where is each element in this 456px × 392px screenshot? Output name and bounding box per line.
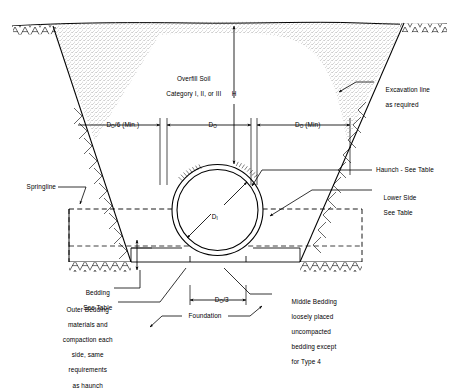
undisturbed-earth-top-right [400, 23, 447, 33]
outer-bedding-label: Outer Bedding materials and compaction e… [50, 298, 118, 392]
foundation-earth-hatch-right [300, 262, 362, 272]
middle-bedding-l4: bedding except [292, 343, 337, 350]
inner-diameter-dimension-label: DI [198, 205, 224, 230]
outer-bedding-l6: as haunch [73, 382, 103, 389]
excavation-line-label: Excavation line as required [378, 78, 456, 116]
overfill-soil-label: Overfill Soil Category I, II, or III [140, 67, 240, 105]
lower-side-label: Lower Side See Table [376, 186, 446, 224]
middle-bedding-l5: for Type 4 [292, 358, 321, 365]
pipe-outer-dimension-label: DO [192, 113, 226, 138]
outer-bedding-l5: requirements [69, 366, 108, 373]
height-h-label: H [226, 90, 242, 98]
foundation-label: Foundation [182, 312, 228, 320]
leader-lower-side [270, 190, 372, 216]
lower-side-l2: See Table [384, 209, 413, 216]
bedding-thickness-dimension [131, 240, 152, 270]
haunch-label: Haunch - See Table [376, 166, 456, 174]
dim-left-tail: /6 (Min.) [115, 121, 139, 128]
undisturbed-earth-top-left [13, 25, 56, 35]
outer-bedding-l4: side, same [72, 351, 104, 358]
outer-bedding-l1: Outer Bedding [67, 306, 110, 313]
dim-right-tail: (Min) [303, 121, 320, 128]
springline-label: Springline [8, 183, 56, 191]
outer-bedding-l2: materials and [68, 321, 108, 328]
middle-bedding-l2: loosely placed [292, 313, 334, 320]
dim-di-sub: I [216, 216, 217, 221]
middle-bedding-l1: Middle Bedding [292, 298, 337, 305]
bedding-l1: Bedding [86, 289, 110, 296]
leader-haunch [252, 170, 372, 186]
lower-side-l1: Lower Side [384, 194, 417, 201]
middle-bedding-dimension-label: DO/3 [196, 288, 240, 313]
overfill-soil-line1: Overfill Soil [177, 75, 211, 82]
foundation-earth-hatch-left [69, 262, 131, 272]
outer-bedding-l3: compaction each [63, 336, 113, 343]
left-clearance-dimension-label: DO/6 (Min.) [84, 113, 154, 138]
excavation-line-l1: Excavation line [386, 86, 430, 93]
right-clearance-dimension-label: DO (Min) [274, 113, 334, 138]
leader-foundation-left [150, 316, 182, 327]
dim-do-sub: O [213, 124, 217, 129]
middle-bedding-l3: uncompacted [292, 328, 331, 335]
leader-bedding [114, 270, 140, 288]
leader-outer-bedding [118, 268, 186, 302]
leader-springline [58, 187, 86, 204]
overfill-soil-line2: Category I, II, or III [166, 90, 221, 97]
middle-bedding-label: Middle Bedding loosely placed uncompacte… [284, 290, 358, 374]
dim-mb-tail: /3 [223, 296, 229, 303]
excavation-line-l2: as required [386, 101, 419, 108]
